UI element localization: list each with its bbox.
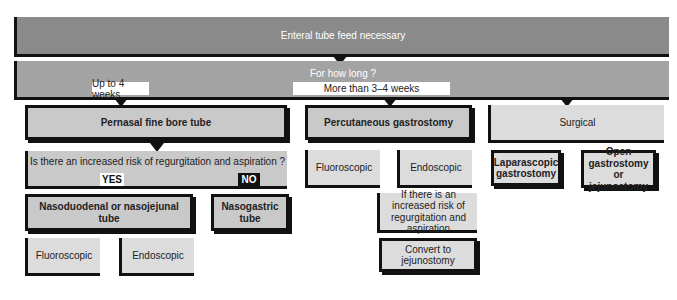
open-surgery-text: Open gastrostomy or jejunostomy [584, 146, 653, 192]
percutaneous-box: Percutaneous gastrostomy [305, 105, 472, 140]
nasogastric-box: Nasogastric tube [211, 194, 289, 231]
percutaneous-text: Percutaneous gastrostomy [324, 117, 453, 129]
nasoduodenal-box: Nasoduodenal or nasojejunal tube [25, 194, 193, 231]
root-box: Enteral tube feed necessary [14, 17, 669, 57]
risk-question-text: Is there an increased risk of regurgitat… [30, 156, 285, 168]
naso-endoscopic-box: Endoscopic [119, 238, 194, 276]
branch-long-label: More than 3–4 weeks [293, 82, 450, 95]
perc-endoscopic-box: Endoscopic [397, 150, 472, 188]
perc-risk-box: If there is an increased risk of regurgi… [377, 193, 477, 233]
yes-label: YES [100, 173, 124, 186]
naso-fluoroscopic-text: Fluoroscopic [36, 250, 93, 262]
convert-text: Convert to jejunostomy [382, 244, 474, 267]
duration-question-text: For how long ? [310, 68, 376, 80]
convert-box: Convert to jejunostomy [379, 238, 477, 272]
pernasal-text: Pernasal fine bore tube [101, 117, 212, 129]
perc-fluoroscopic-text: Fluoroscopic [316, 162, 373, 174]
nasogastric-text: Nasogastric tube [214, 201, 286, 224]
laparoscopic-text: Laparascopic gastrostomy [494, 157, 558, 180]
no-label: NO [238, 173, 260, 186]
surgical-box: Surgical [488, 105, 664, 143]
pernasal-box: Pernasal fine bore tube [25, 105, 287, 140]
naso-endoscopic-text: Endoscopic [132, 250, 184, 262]
branch-short-label: Up to 4 weeks [92, 82, 149, 95]
open-surgery-box: Open gastrostomy or jejunostomy [581, 150, 656, 188]
laparoscopic-box: Laparascopic gastrostomy [491, 150, 561, 186]
naso-fluoroscopic-box: Fluoroscopic [25, 238, 100, 276]
surgical-text: Surgical [559, 117, 595, 129]
perc-risk-text: If there is an increased risk of regurgi… [380, 189, 477, 235]
nasoduodenal-text: Nasoduodenal or nasojejunal tube [28, 201, 190, 224]
perc-endoscopic-text: Endoscopic [410, 162, 462, 174]
root-text: Enteral tube feed necessary [281, 30, 406, 42]
perc-fluoroscopic-box: Fluoroscopic [305, 150, 380, 188]
